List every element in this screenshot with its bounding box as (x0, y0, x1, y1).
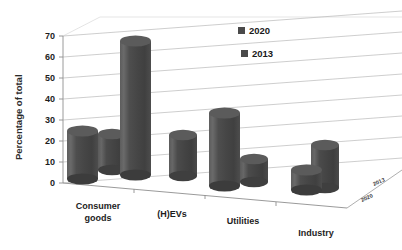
chart-background (0, 0, 402, 250)
bar-2020-hevs (120, 35, 151, 180)
category-label-hevs: (H)EVs (157, 209, 187, 219)
chart-container: 0 10 20 30 40 50 60 70 Percentage of tot… (0, 0, 402, 250)
category-label-utilities: Utilities (227, 216, 260, 226)
bar-2020-industry (291, 164, 322, 195)
bar-2013-utilities (240, 154, 268, 187)
legend-swatch-2020 (238, 27, 245, 34)
y-tick-20: 20 (45, 136, 55, 146)
bar-2020-utilities (209, 107, 240, 191)
y-axis-title: Percentage of total (13, 74, 24, 160)
legend-swatch-2013 (241, 50, 248, 57)
y-tick-60: 60 (45, 52, 55, 62)
y-tick-30: 30 (45, 115, 55, 125)
y-tick-40: 40 (45, 94, 55, 104)
y-tick-0: 0 (50, 178, 55, 188)
category-label-consumer-goods-line2: goods (85, 213, 112, 223)
bar-2020-consumer-goods (67, 125, 98, 184)
bar-2013-hevs (169, 130, 197, 181)
legend-label-2020: 2020 (249, 25, 270, 36)
y-tick-10: 10 (45, 157, 55, 167)
legend-label-2013: 2013 (252, 48, 273, 59)
y-tick-50: 50 (45, 73, 55, 83)
category-label-industry: Industry (298, 228, 334, 238)
category-label-consumer-goods-line1: Consumer (76, 201, 121, 211)
cylinder-3d-bar-chart: 0 10 20 30 40 50 60 70 Percentage of tot… (0, 0, 402, 250)
y-tick-70: 70 (45, 31, 55, 41)
